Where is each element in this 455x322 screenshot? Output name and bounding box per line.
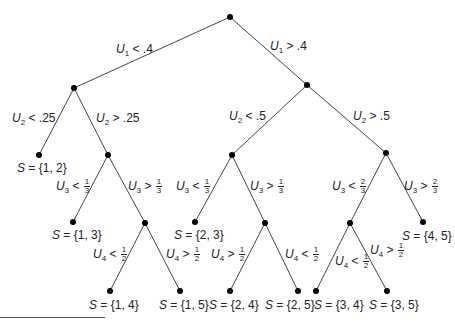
fraction: 13 [84,178,90,195]
set-value: {1, 5} [181,298,209,312]
tree-node [420,219,426,225]
set-value: {4, 5} [424,229,452,243]
set-value: {3, 4} [336,298,364,312]
operator: < [348,254,362,268]
equals: = [60,228,74,242]
set-value: {2, 3} [196,228,224,242]
denominator: 2 [398,251,404,259]
operator: < [25,111,39,125]
tree-node [177,288,183,294]
fraction: 13 [204,178,210,195]
leaf-label: S = {3, 4} [314,298,364,312]
set-value: {3, 5} [391,298,419,312]
edge-label: U4 > 12 [211,246,245,263]
equals: = [97,298,111,312]
footnote-rule [0,317,105,318]
fraction: 12 [398,242,404,259]
set-variable: S [17,161,25,175]
variable: U [270,39,279,53]
tree-node [227,288,233,294]
tree-node [71,85,77,91]
fraction: 13 [156,178,162,195]
operator: < [189,179,203,193]
operator: < [106,247,120,261]
variable: U [56,179,65,193]
edge-label: U4 < 12 [335,253,369,270]
denominator: 2 [239,255,245,263]
equals: = [167,298,181,312]
tree-node [229,152,235,158]
edge-label: U4 > 12 [166,246,200,263]
edge-label: U2 < .5 [229,109,266,123]
edge-label: U3 > 23 [404,178,438,195]
operator: < [345,179,359,193]
leaf-label: S = {3, 5} [369,298,419,312]
leaf-label: S = {2, 3} [174,228,224,242]
fraction: 12 [194,246,200,263]
operator: > [263,179,277,193]
set-value: {1, 2} [39,161,67,175]
threshold: .5 [380,109,390,123]
fraction: 12 [363,253,369,270]
operator: > [283,39,297,53]
denominator: 3 [156,187,162,195]
denominator: 2 [363,262,369,270]
set-value: {2, 4} [231,298,259,312]
leaf-label: S = {1, 4} [89,298,139,312]
operator: > [141,179,155,193]
operator: < [298,247,312,261]
edge-label: U3 < 13 [176,178,210,195]
denominator: 3 [278,187,284,195]
edge-label: U3 > 13 [250,178,284,195]
fraction: 13 [278,178,284,195]
variable: U [166,247,175,261]
equals: = [322,298,336,312]
edge-label: U1 < .4 [116,42,153,56]
tree-node [107,288,113,294]
edge-label: U1 > .4 [270,39,307,53]
edge-label: U4 < 12 [285,246,319,263]
leaf-label: S = {2, 4} [209,298,259,312]
set-variable: S [89,298,97,312]
tree-node [192,219,198,225]
operator: > [109,111,123,125]
variable: U [332,179,341,193]
fraction: 23 [432,178,438,195]
variable: U [128,179,137,193]
equals: = [273,298,287,312]
operator: > [366,109,380,123]
denominator: 3 [204,187,210,195]
variable: U [370,243,379,257]
set-variable: S [369,298,377,312]
tree-node [70,219,76,225]
edge-label: U3 < 23 [332,178,366,195]
threshold: .4 [297,39,307,53]
operator: < [242,109,256,123]
threshold: .25 [39,111,56,125]
equals: = [217,298,231,312]
set-variable: S [174,228,182,242]
set-value: {1, 4} [111,298,139,312]
operator: > [179,247,193,261]
variable: U [229,109,238,123]
threshold: .4 [143,42,153,56]
set-variable: S [265,298,273,312]
threshold: .5 [256,109,266,123]
edge-label: U3 > 13 [128,178,162,195]
operator: > [417,179,431,193]
variable: U [335,254,344,268]
operator: > [383,243,397,257]
leaf-label: S = {2, 5} [265,298,315,312]
fraction: 12 [121,246,127,263]
decision-tree [0,0,455,322]
tree-node [347,220,353,226]
tree-node [384,288,390,294]
tree-node [383,150,389,156]
variable: U [211,247,220,261]
tree-node [36,152,42,158]
leaf-label: S = {1, 2} [17,161,67,175]
edge-label: U2 > .5 [353,109,390,123]
tree-node [105,152,111,158]
operator: < [129,42,143,56]
set-variable: S [159,298,167,312]
